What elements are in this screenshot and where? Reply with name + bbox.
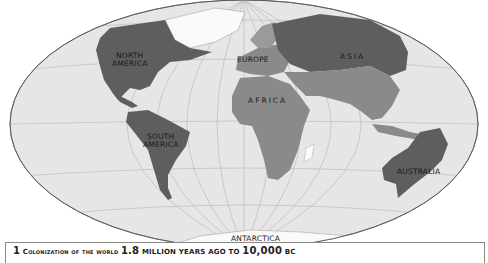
label-australia: AUSTRALIA <box>397 168 440 176</box>
label-africa: AFRICA <box>248 97 287 105</box>
map-caption: 1 Colonization of the world 1.8 million … <box>13 245 296 256</box>
caption-number: 1 <box>13 245 20 256</box>
label-europe: EUROPE <box>237 56 269 64</box>
caption-text-1: Colonization of the world <box>23 248 118 256</box>
caption-box: 1 Colonization of the world 1.8 million … <box>5 242 485 263</box>
label-north-america: NORTH AMERICA <box>112 52 148 68</box>
label-south-america: SOUTH AMERICA <box>143 133 179 149</box>
caption-text-2: million years ago to <box>142 248 240 256</box>
caption-value-2: 10,000 <box>242 245 282 256</box>
caption-value-1: 1.8 <box>121 245 139 256</box>
label-asia: ASIA <box>340 53 365 61</box>
caption-text-3: BC <box>285 248 296 256</box>
